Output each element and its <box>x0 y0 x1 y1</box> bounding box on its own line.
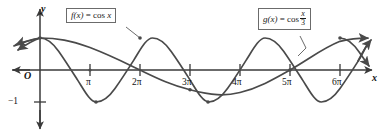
function-label-f: f(x) = cos x <box>66 8 116 23</box>
x-tick-label-5pi: 5π <box>282 77 292 87</box>
g-label-fraction: x3 <box>300 10 306 27</box>
x-tick-label-pi: π <box>86 77 91 87</box>
f-label-equals: = cos <box>86 10 105 20</box>
y-axis-label: y <box>41 3 45 14</box>
f-label-argument: x <box>107 10 111 20</box>
origin-label: O <box>24 70 31 81</box>
g-label-denominator: 3 <box>300 19 306 27</box>
trig-graph-figure: f(x) = cos x g(x) = cosx3 y x O −1 π 2π … <box>0 0 388 133</box>
f-label-leader-line <box>126 27 140 38</box>
f-label-prefix: f(x) <box>71 10 84 20</box>
y-tick-label-neg-one: −1 <box>8 96 18 106</box>
x-tick-label-2pi: 2π <box>132 77 142 87</box>
x-tick-label-4pi: 4π <box>232 77 242 87</box>
curve-f-right-descend <box>340 38 369 66</box>
function-label-g: g(x) = cosx3 <box>258 8 311 30</box>
g-label-leader-line <box>298 36 306 56</box>
g-label-prefix: g(x) <box>263 14 278 24</box>
f-label-leader-dot <box>138 36 142 40</box>
x-tick-label-3pi: 3π <box>182 77 192 87</box>
g-label-equals: = cos <box>280 14 299 24</box>
cosine-graph-plot <box>0 0 388 133</box>
curve-f-right-arrow <box>358 40 371 61</box>
x-tick-label-6pi: 6π <box>332 77 342 87</box>
x-axis-label: x <box>372 72 377 83</box>
